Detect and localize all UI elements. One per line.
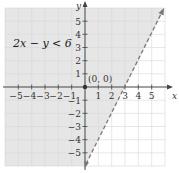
svg-text:1: 1 xyxy=(75,69,81,79)
svg-text:2: 2 xyxy=(75,56,81,66)
test-point-origin xyxy=(83,85,87,89)
svg-text:−2: −2 xyxy=(49,91,62,101)
svg-text:2: 2 xyxy=(109,91,115,101)
svg-text:5: 5 xyxy=(149,91,155,101)
svg-text:−5: −5 xyxy=(68,148,82,158)
svg-text:3: 3 xyxy=(75,43,81,53)
y-axis-arrow-icon xyxy=(83,1,88,7)
svg-text:−3: −3 xyxy=(36,91,50,101)
inequality-graph: −5 −4 −3 −2 −1 1 2 3 4 5 5 4 3 2 1 −1 −2… xyxy=(0,0,179,173)
x-axis-label: x xyxy=(172,91,177,101)
svg-text:−3: −3 xyxy=(68,122,82,132)
svg-text:−4: −4 xyxy=(68,135,82,145)
svg-text:−5: −5 xyxy=(9,91,23,101)
svg-text:1: 1 xyxy=(95,91,101,101)
test-point-label: (0, 0) xyxy=(88,74,112,84)
svg-text:5: 5 xyxy=(75,17,81,27)
svg-text:4: 4 xyxy=(135,91,141,101)
y-axis-label: y xyxy=(75,1,82,11)
svg-text:−2: −2 xyxy=(68,109,81,119)
svg-text:−4: −4 xyxy=(23,91,37,101)
svg-text:−1: −1 xyxy=(68,96,81,106)
inequality-label: 2x − y < 6 xyxy=(12,37,72,50)
svg-text:3: 3 xyxy=(122,91,128,101)
svg-text:4: 4 xyxy=(75,30,81,40)
x-axis-arrow-icon xyxy=(167,85,173,90)
